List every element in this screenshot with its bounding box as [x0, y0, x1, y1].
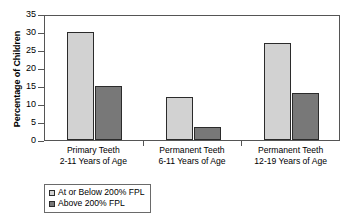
category-label-line1: Permanent Teeth [143, 145, 242, 156]
category-label-line1: Primary Teeth [44, 145, 143, 156]
bar [95, 86, 122, 140]
y-tick-label: 15 [0, 82, 36, 91]
bar [292, 93, 319, 140]
legend-swatch-light-icon [49, 190, 55, 196]
x-axis-category-label: Permanent Teeth6-11 Years of Age [143, 145, 242, 166]
y-tick-label: 30 [0, 28, 36, 37]
category-label-line2: 6-11 Years of Age [143, 156, 242, 167]
x-axis-category-label: Primary Teeth2-11 Years of Age [44, 145, 143, 166]
bar [264, 43, 291, 140]
y-tick-label: 25 [0, 46, 36, 55]
legend-swatch-dark-icon [49, 201, 55, 207]
x-axis-category-label: Permanent Teeth12-19 Years of Age [241, 145, 340, 166]
y-tick-label: 0 [0, 136, 36, 145]
plot-area [44, 15, 340, 141]
legend-item: At or Below 200% FPL [49, 187, 144, 198]
bar [194, 127, 221, 140]
chart-legend: At or Below 200% FPL Above 200% FPL [44, 184, 151, 213]
legend-item: Above 200% FPL [49, 198, 144, 209]
bars-layer [45, 16, 339, 140]
y-tick-label: 20 [0, 64, 36, 73]
bar-chart-figure: Percentage of Children 05101520253035 Pr… [0, 0, 349, 220]
category-label-line2: 2-11 Years of Age [44, 156, 143, 167]
category-label-line2: 12-19 Years of Age [241, 156, 340, 167]
y-tick-label: 5 [0, 118, 36, 127]
legend-label: At or Below 200% FPL [58, 188, 144, 197]
bar [67, 32, 94, 140]
y-tick-label: 35 [0, 10, 36, 19]
legend-label: Above 200% FPL [58, 199, 125, 208]
category-label-line1: Permanent Teeth [241, 145, 340, 156]
y-tick-label: 10 [0, 100, 36, 109]
bar [166, 97, 193, 140]
